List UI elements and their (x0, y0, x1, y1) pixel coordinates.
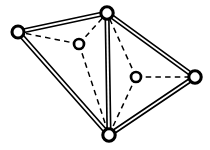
node-interior2[interactable] (131, 72, 141, 82)
node-interior1[interactable] (74, 39, 84, 49)
edge-left-top-core (18, 13, 107, 32)
node-bottom[interactable] (103, 129, 115, 141)
node-left[interactable] (12, 26, 24, 38)
edge-bottom-left-core (18, 32, 109, 135)
graph-diagram (0, 0, 210, 150)
graph-canvas (0, 0, 210, 150)
edge-top-right-core (107, 13, 195, 77)
node-top[interactable] (101, 7, 113, 19)
node-right[interactable] (189, 71, 201, 83)
